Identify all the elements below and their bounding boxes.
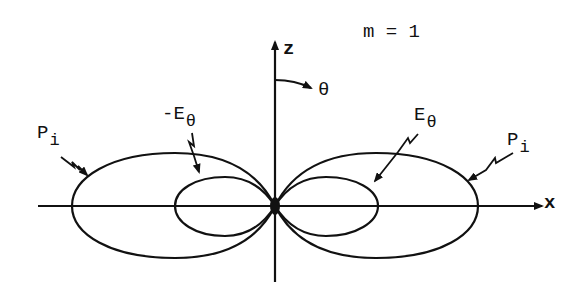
theta-label: θ xyxy=(318,81,329,100)
leader-e-theta-neg xyxy=(189,133,199,172)
label-pi-left-main: P xyxy=(37,122,48,144)
leader-pi-left xyxy=(61,157,87,175)
leader-e-theta xyxy=(375,134,418,181)
origin-node xyxy=(270,197,280,215)
label-e-theta-sub: θ xyxy=(426,113,436,132)
label-pi-left-sub: i xyxy=(49,131,59,150)
label-e-theta-neg-sub: θ xyxy=(186,112,196,131)
z-axis-label: z xyxy=(283,40,294,59)
label-e-theta: Eθ xyxy=(414,106,437,125)
label-pi-right-sub: i xyxy=(519,138,529,157)
label-e-theta-main: E xyxy=(414,104,425,126)
mode-label: m = 1 xyxy=(363,23,420,42)
radiation-pattern-diagram: m = 1 z θ x Pi -Eθ Eθ Pi xyxy=(0,0,586,300)
leader-pi-right xyxy=(469,153,513,180)
label-pi-left: Pi xyxy=(37,124,60,143)
x-axis-label: x xyxy=(544,194,555,213)
label-pi-right: Pi xyxy=(507,131,530,150)
theta-arrow xyxy=(275,80,311,88)
label-e-theta-neg: -Eθ xyxy=(162,105,196,124)
label-e-theta-neg-main: -E xyxy=(162,103,185,125)
label-pi-right-main: P xyxy=(507,129,518,151)
